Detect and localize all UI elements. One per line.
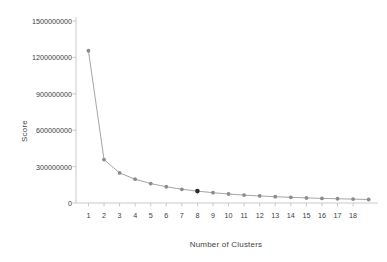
data-point <box>149 182 153 186</box>
x-tick-label: 16 <box>318 211 326 220</box>
x-tick-label: 11 <box>240 211 247 220</box>
data-point <box>367 198 371 202</box>
x-tick-label: 4 <box>133 211 137 220</box>
data-point <box>118 171 122 175</box>
highlighted-data-point <box>195 189 200 194</box>
x-tick-label: 1 <box>86 211 90 220</box>
data-point <box>180 187 184 191</box>
data-point <box>336 197 340 201</box>
data-point <box>87 49 91 53</box>
x-tick-label: 5 <box>149 211 153 220</box>
x-tick-label: 17 <box>334 211 342 220</box>
x-tick-label: 15 <box>302 211 310 220</box>
x-axis-tick-labels: 123456789101112131415161718 <box>0 211 387 225</box>
data-point <box>227 192 231 196</box>
x-tick-label: 13 <box>271 211 279 220</box>
y-axis-ticks <box>73 21 77 203</box>
score-line <box>88 51 368 200</box>
data-point <box>242 193 246 197</box>
x-tick-label: 2 <box>102 211 106 220</box>
x-tick-label: 12 <box>256 211 264 220</box>
x-tick-label: 7 <box>180 211 184 220</box>
data-point <box>258 194 262 198</box>
data-point <box>351 197 355 201</box>
x-tick-label: 18 <box>349 211 357 220</box>
data-point <box>133 177 137 181</box>
data-point <box>289 195 293 199</box>
x-tick-label: 8 <box>195 211 199 220</box>
data-point <box>102 158 106 162</box>
axis-lines <box>76 17 378 203</box>
data-point <box>211 191 215 195</box>
data-point <box>320 196 324 200</box>
data-point <box>164 185 168 189</box>
x-tick-label: 9 <box>211 211 215 220</box>
x-tick-label: 14 <box>287 211 295 220</box>
x-tick-label: 10 <box>225 211 233 220</box>
x-tick-label: 3 <box>118 211 122 220</box>
chart-figure: Score 0300000000600000000900000000120000… <box>0 0 387 262</box>
x-axis-title: Number of Clusters <box>76 240 376 249</box>
x-axis-ticks <box>88 203 353 207</box>
x-tick-label: 6 <box>164 211 168 220</box>
data-point <box>304 196 308 200</box>
data-point <box>273 195 277 199</box>
score-markers <box>87 49 371 202</box>
